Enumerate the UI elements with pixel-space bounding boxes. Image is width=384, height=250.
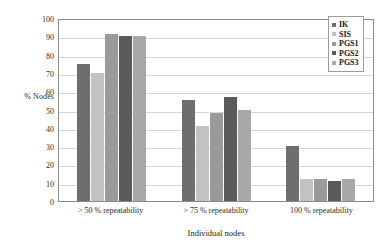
y-tick-label: 40 bbox=[26, 124, 54, 133]
bar-pgs1 bbox=[105, 34, 118, 201]
legend-swatch-icon bbox=[332, 32, 336, 36]
bar-group bbox=[164, 20, 269, 201]
x-tick-label: > 75 % repeatability bbox=[163, 206, 268, 215]
legend-label: SIS bbox=[339, 30, 351, 39]
y-axis-tick-labels: 0102030405060708090100 bbox=[26, 14, 54, 206]
bar-sis bbox=[300, 179, 313, 201]
legend-label: PGS1 bbox=[339, 39, 359, 48]
bar-pgs2 bbox=[224, 97, 237, 201]
legend-label: PGS3 bbox=[339, 58, 359, 67]
bar-chart: % Nodes 0102030405060708090100 IKSISPGS1… bbox=[0, 0, 384, 250]
y-tick-label: 70 bbox=[26, 69, 54, 78]
legend-item-pgs3: PGS3 bbox=[332, 58, 359, 67]
bar-pgs2 bbox=[328, 181, 341, 201]
y-tick-label: 30 bbox=[26, 143, 54, 152]
y-tick-label: 100 bbox=[26, 15, 54, 24]
y-tick-label: 50 bbox=[26, 106, 54, 115]
bar-sis bbox=[91, 73, 104, 201]
y-tick-label: 10 bbox=[26, 179, 54, 188]
legend: IKSISPGS1PGS2PGS3 bbox=[328, 16, 364, 72]
legend-swatch-icon bbox=[332, 61, 336, 65]
bar-pgs3 bbox=[133, 36, 146, 201]
x-tick-label: 100 % repeatability bbox=[269, 206, 374, 215]
legend-item-pgs2: PGS2 bbox=[332, 49, 359, 58]
legend-label: PGS2 bbox=[339, 49, 359, 58]
bar-sis bbox=[196, 126, 209, 201]
legend-swatch-icon bbox=[332, 23, 336, 27]
bar-ik bbox=[77, 64, 90, 201]
legend-swatch-icon bbox=[332, 42, 336, 46]
bar-pgs1 bbox=[210, 113, 223, 201]
y-tick-label: 60 bbox=[26, 88, 54, 97]
y-tick-label: 80 bbox=[26, 51, 54, 60]
legend-item-pgs1: PGS1 bbox=[332, 39, 359, 48]
bar-pgs3 bbox=[342, 179, 355, 201]
bar-ik bbox=[182, 100, 195, 201]
bar-ik bbox=[286, 146, 299, 201]
y-tick-label: 0 bbox=[26, 198, 54, 207]
legend-item-sis: SIS bbox=[332, 30, 359, 39]
legend-swatch-icon bbox=[332, 51, 336, 55]
bar-pgs2 bbox=[119, 36, 132, 201]
bar-group bbox=[59, 20, 164, 201]
legend-item-ik: IK bbox=[332, 20, 359, 29]
plot-frame bbox=[58, 19, 374, 202]
x-axis-tick-labels: > 50 % repeatability> 75 % repeatability… bbox=[58, 206, 374, 215]
plot-area bbox=[59, 20, 373, 201]
bar-pgs1 bbox=[314, 179, 327, 201]
legend-label: IK bbox=[339, 20, 348, 29]
y-tick-label: 90 bbox=[26, 33, 54, 42]
y-tick-label: 20 bbox=[26, 161, 54, 170]
bar-pgs3 bbox=[238, 110, 251, 202]
x-axis-title: Individual nodes bbox=[58, 228, 374, 238]
x-tick-label: > 50 % repeatability bbox=[58, 206, 163, 215]
